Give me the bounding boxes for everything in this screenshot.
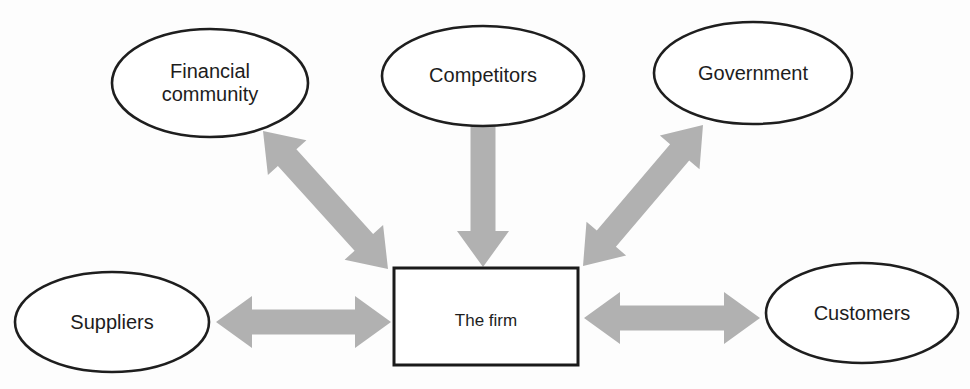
- arrow-government-firm: [583, 125, 703, 266]
- arrow-suppliers-firm: [216, 296, 391, 348]
- arrow-competitors-firm: [457, 126, 509, 267]
- arrow-financial-community-firm: [263, 131, 388, 269]
- label-government: Government: [698, 62, 808, 85]
- label-customers: Customers: [814, 302, 911, 325]
- label-suppliers: Suppliers: [70, 311, 153, 334]
- arrow-firm-customers: [584, 292, 760, 344]
- label-competitors: Competitors: [429, 64, 537, 87]
- label-financial-community: Financial community: [148, 60, 273, 106]
- stakeholder-diagram: Financial community Competitors Governme…: [0, 0, 970, 389]
- label-the-firm: The firm: [455, 311, 517, 331]
